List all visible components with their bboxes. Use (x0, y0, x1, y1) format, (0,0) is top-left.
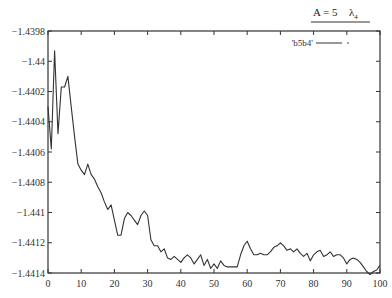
y-tick-label: −1.4404 (12, 116, 45, 127)
title-main: A = 5 (313, 6, 338, 18)
series-line-b5b4 (48, 51, 380, 275)
legend-label: 'b5b4' (292, 38, 314, 48)
y-tick-label: −1.4406 (12, 147, 45, 158)
x-tick-label: 70 (275, 278, 285, 289)
legend-dot (347, 42, 349, 44)
y-tick-label: −1.44 (22, 56, 45, 67)
title-subscript: 4 (354, 13, 358, 21)
x-tick-label: 50 (209, 278, 219, 289)
y-tick-label: −1.4402 (12, 86, 45, 97)
x-tick-label: 10 (76, 278, 86, 289)
chart-title: A = 5 λ4 (311, 6, 370, 22)
y-tick-label: −1.4408 (12, 177, 45, 188)
y-tick-label: −1.4398 (12, 26, 45, 37)
y-tick-label: −1.4414 (12, 268, 45, 279)
x-tick-label: 80 (309, 278, 319, 289)
x-tick-label: 0 (46, 278, 51, 289)
x-tick-label: 40 (176, 278, 186, 289)
plot-frame (48, 31, 380, 273)
x-tick-label: 30 (143, 278, 153, 289)
y-axis: −1.4398−1.44−1.4402−1.4404−1.4406−1.4408… (12, 26, 380, 279)
x-tick-label: 20 (109, 278, 119, 289)
x-axis: 0102030405060708090100 (46, 31, 388, 289)
line-chart: A = 5 λ4 0102030405060708090100 −1.4398−… (0, 0, 392, 298)
x-tick-label: 100 (373, 278, 388, 289)
title-symbol: λ4 (349, 6, 358, 21)
y-tick-label: −1.441 (17, 207, 45, 218)
x-tick-label: 60 (242, 278, 252, 289)
x-tick-label: 90 (342, 278, 352, 289)
legend: 'b5b4' (292, 38, 349, 48)
y-tick-label: −1.4412 (12, 237, 45, 248)
